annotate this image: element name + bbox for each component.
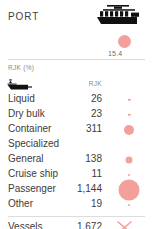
row-label: Dry bulk xyxy=(8,108,45,119)
barge-boat-icon xyxy=(7,77,38,89)
row-value: 19 xyxy=(52,198,102,209)
page-title: PORT xyxy=(8,11,39,22)
row-bubble-cell xyxy=(108,182,150,197)
row-value: 23 xyxy=(52,108,102,119)
row-value: 11 xyxy=(52,168,102,179)
kpi-bubble-marker xyxy=(118,35,131,48)
cargo-ship-icon xyxy=(93,4,145,28)
row-label: Container xyxy=(8,123,51,134)
row-value: 26 xyxy=(52,93,102,104)
bubble-marker xyxy=(128,174,130,176)
table-row: Specialized xyxy=(0,137,153,152)
bubble-marker xyxy=(126,156,133,163)
bubble-marker xyxy=(124,125,134,135)
kpi-block: 15.4 xyxy=(0,33,153,59)
port-summary-card: PORT 15.4 RJK (%) xyxy=(0,0,153,229)
row-bubble-cell xyxy=(108,137,150,152)
row-value: 138 xyxy=(52,153,102,164)
table-row: Container311 xyxy=(0,122,153,137)
cross-marker-icon xyxy=(116,220,133,229)
card-header: PORT xyxy=(0,0,153,33)
row-label: Cruise ship xyxy=(8,168,58,179)
kpi-value: 15.4 xyxy=(108,50,122,57)
table-row: Passenger1,144 xyxy=(0,182,153,197)
bubble-marker xyxy=(128,113,131,116)
column-header-rjk: RJK xyxy=(60,80,102,87)
row-label: General xyxy=(8,153,44,164)
table-row: Liquid26 xyxy=(0,92,153,107)
row-value: 1,144 xyxy=(52,183,102,194)
row-bubble-cell xyxy=(108,197,150,212)
table-row: Dry bulk23 xyxy=(0,107,153,122)
table-row: Other19 xyxy=(0,197,153,212)
row-bubble-cell xyxy=(108,92,150,107)
row-bubble-cell xyxy=(108,122,150,137)
bubble-marker xyxy=(128,98,131,101)
bubble-marker xyxy=(128,204,130,206)
row-bubble-cell xyxy=(108,107,150,122)
table-row: General138 xyxy=(0,152,153,167)
row-value: 311 xyxy=(52,123,102,134)
row-label: Liquid xyxy=(8,93,35,104)
column-header-row: RJK xyxy=(0,77,153,91)
row-bubble-cell xyxy=(108,152,150,167)
total-value: 1,672 xyxy=(52,221,102,229)
row-label: Passenger xyxy=(8,183,56,194)
row-label: Specialized xyxy=(8,138,59,149)
total-label: Vessels xyxy=(8,221,42,229)
total-row: Vessels 1,672 xyxy=(0,217,153,229)
unit-label: RJK (%) xyxy=(8,64,34,71)
data-rows: Liquid26Dry bulk23Container311Specialize… xyxy=(0,91,153,212)
unit-row: RJK (%) xyxy=(0,60,153,77)
row-label: Other xyxy=(8,198,33,209)
